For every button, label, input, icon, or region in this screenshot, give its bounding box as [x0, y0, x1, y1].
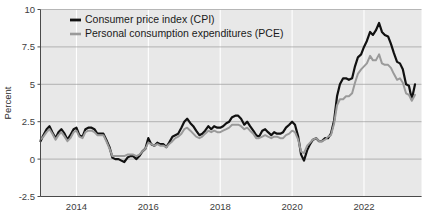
x-tick-label: 2018 [210, 201, 231, 212]
x-tick-label: 2016 [138, 201, 159, 212]
y-axis: -2.502.557.510 [19, 4, 41, 202]
legend-label-cpi: Consumer price index (CPI) [85, 13, 215, 25]
y-axis-title: Percent [2, 86, 13, 119]
y-tick-label: 10 [24, 4, 35, 15]
x-axis: 20142016201820202022 [41, 197, 422, 212]
x-tick-label: 2020 [282, 201, 303, 212]
chart-canvas: -2.502.557.510 20142016201820202022 Perc… [0, 0, 422, 220]
y-tick-label: -2.5 [19, 191, 35, 202]
x-tick-label: 2014 [66, 201, 87, 212]
inflation-line-chart: -2.502.557.510 20142016201820202022 Perc… [0, 0, 422, 220]
x-tick-label: 2022 [353, 201, 374, 212]
y-tick-label: 0 [30, 154, 35, 165]
y-tick-label: 2.5 [22, 116, 35, 127]
legend-label-pce: Personal consumption expenditures (PCE) [85, 27, 283, 39]
y-tick-label: 7.5 [22, 41, 35, 52]
y-tick-label: 5 [30, 79, 35, 90]
y-axis-title-text: Percent [2, 86, 13, 119]
